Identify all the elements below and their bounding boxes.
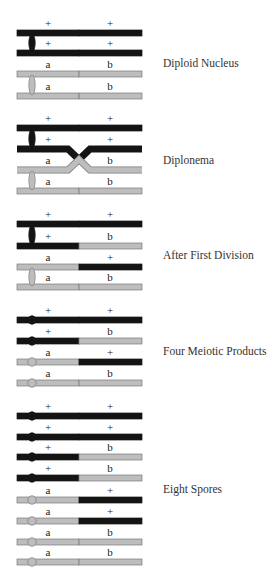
allele-right-label: +: [107, 37, 113, 49]
chromatid-left-segment: [17, 243, 79, 249]
centromere-icon: [28, 358, 36, 366]
allele-right-label: b: [107, 80, 113, 92]
allele-left-label: +: [45, 133, 51, 145]
allele-left-label: a: [46, 367, 51, 379]
chromatid-left-segment: [17, 518, 79, 524]
chromatid: a+: [17, 505, 142, 525]
chromatid-left-segment: [17, 125, 79, 131]
centromere-icon: [28, 379, 36, 387]
allele-right-label: +: [107, 505, 113, 517]
allele-left-label: a: [46, 484, 51, 496]
allele-right-label: b: [107, 154, 113, 166]
chromatid: ab: [17, 80, 142, 99]
chromatid: ab: [17, 175, 142, 194]
chromatid-left-segment: [17, 434, 79, 440]
centromere-icon: [28, 538, 36, 546]
chromatid-left-segment: [17, 559, 79, 565]
chromatid-right-segment: [79, 125, 142, 131]
chromatid: ++: [17, 208, 142, 227]
chromatid-left-segment: [17, 380, 79, 386]
chromatid-right-segment: [79, 243, 142, 249]
chromatid-left-segment: [17, 413, 79, 419]
allele-right-label: b: [107, 546, 113, 558]
chromatid: ++: [17, 112, 142, 131]
stage-label: Diploid Nucleus: [163, 58, 239, 70]
allele-left-label: a: [46, 271, 51, 283]
chromatid: ab: [17, 271, 142, 290]
centromere-icon: [29, 225, 35, 245]
chromatid-right-segment: [79, 50, 142, 56]
allele-right-label: b: [107, 367, 113, 379]
allele-right-label: b: [107, 175, 113, 187]
chromatid-right-segment: [79, 539, 142, 545]
allele-left-label: a: [46, 58, 51, 70]
centromere-icon: [28, 558, 36, 566]
allele-left-label: +: [45, 441, 51, 453]
chromatid-right-segment: [79, 380, 142, 386]
chromatid-right-segment: [79, 559, 142, 565]
centromere-icon: [29, 171, 35, 190]
allele-right-label: b: [107, 230, 113, 242]
chromatid: +b: [17, 462, 142, 482]
chromatid: ab: [17, 526, 142, 546]
chromatid-right-segment: [79, 93, 142, 99]
chromatid-left-segment: [17, 497, 79, 503]
chromatid-left-segment: [17, 30, 79, 36]
chromatid-left-segment: [17, 454, 79, 460]
chromatid: ab: [17, 154, 142, 170]
centromere-icon: [28, 517, 36, 525]
chromatid-right-segment: [79, 359, 142, 365]
chromatid: a+: [17, 346, 142, 366]
allele-right-label: +: [107, 346, 113, 358]
chromatid: a+: [17, 484, 142, 504]
stage-diplonema: ++++abab: [17, 112, 142, 194]
chromatid: +b: [17, 230, 142, 249]
allele-right-label: +: [107, 17, 113, 29]
chromatid-right-segment: [79, 30, 142, 36]
allele-right-label: +: [107, 112, 113, 124]
chromatid-right-segment: [79, 317, 142, 323]
chromatid: +b: [17, 441, 142, 461]
allele-right-label: +: [107, 251, 113, 263]
allele-right-label: b: [107, 58, 113, 70]
centromere-icon: [28, 412, 36, 420]
allele-left-label: +: [45, 112, 51, 124]
allele-right-label: b: [107, 462, 113, 474]
chromatid-right-segment: [79, 434, 142, 440]
chromatid-left-segment: [17, 93, 79, 99]
centromere-icon: [28, 316, 36, 324]
chromatid-left-segment: [17, 338, 79, 344]
chromatid-right-segment: [79, 475, 142, 481]
stage-label: Eight Spores: [163, 484, 222, 496]
chromatid: ++: [17, 17, 142, 36]
centromere-icon: [28, 433, 36, 441]
chromatid: ++: [17, 421, 142, 441]
allele-left-label: a: [46, 80, 51, 92]
centromere-icon: [28, 453, 36, 461]
allele-right-label: b: [107, 271, 113, 283]
meiosis-diagram: ++++abab++++abab+++ba+ab+++ba+ab+++++b+b…: [0, 0, 273, 585]
allele-right-label: +: [107, 133, 113, 145]
chromatid: ++: [17, 304, 142, 324]
chromatid-right-segment: [79, 188, 142, 194]
chromatid: a+: [17, 251, 142, 270]
chromatid-left-segment: [17, 359, 79, 365]
stage-diploid-nucleus: ++++abab: [17, 17, 142, 99]
stage-after-first-division: +++ba+ab: [17, 208, 142, 290]
allele-left-label: a: [46, 526, 51, 538]
allele-left-label: +: [45, 230, 51, 242]
centromere-icon: [29, 129, 35, 148]
allele-right-label: +: [107, 400, 113, 412]
chromatid-right-segment: [79, 71, 142, 77]
stage-four-meiotic-products: +++ba+ab: [17, 304, 142, 387]
chromatid-left-segment: [17, 188, 79, 194]
chromatid-left-segment: [17, 475, 79, 481]
centromere-icon: [28, 337, 36, 345]
chromatid-right-segment: [79, 497, 142, 503]
chromatid-right-segment: [79, 454, 142, 460]
allele-left-label: +: [45, 17, 51, 29]
chromatid: ab: [17, 546, 142, 566]
allele-right-label: b: [107, 325, 113, 337]
chromatid-left-segment: [17, 50, 79, 56]
chromatid: ab: [17, 367, 142, 387]
